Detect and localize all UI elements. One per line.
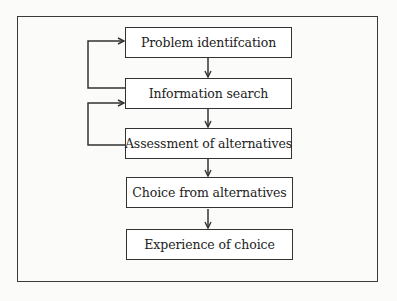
step-label: Choice from alternatives (132, 185, 286, 200)
step-choice-from-alternatives: Choice from alternatives (126, 177, 293, 208)
step-problem-identification: Problem identifcation (125, 27, 292, 58)
step-label: Experience of choice (144, 237, 274, 252)
step-experience-of-choice: Experience of choice (126, 229, 293, 260)
feedback-arrow-step2-to-step1 (88, 41, 125, 88)
step-information-search: Information search (125, 78, 292, 109)
step-label: Information search (149, 86, 268, 101)
step-assessment-of-alternatives: Assessment of alternatives (125, 128, 292, 159)
feedback-arrow-step3-to-step2 (88, 103, 125, 145)
step-label: Problem identifcation (141, 35, 276, 50)
step-label: Assessment of alternatives (125, 136, 292, 151)
